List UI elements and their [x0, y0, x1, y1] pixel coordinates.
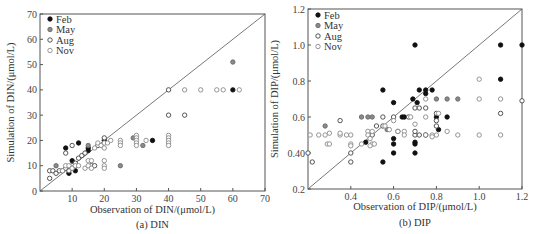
data-point — [413, 151, 417, 155]
data-point — [498, 133, 502, 137]
data-point — [199, 88, 203, 92]
data-point — [498, 111, 502, 115]
data-point — [391, 151, 395, 155]
data-point — [83, 151, 87, 155]
data-point — [391, 118, 395, 122]
series-may — [54, 60, 235, 168]
x-tick-label: 1.2 — [516, 191, 529, 202]
data-point — [308, 133, 312, 137]
data-point — [92, 146, 96, 150]
data-point — [317, 133, 321, 137]
data-point — [434, 133, 438, 137]
data-point — [417, 88, 421, 92]
y-tick-label: 1.2 — [293, 4, 306, 15]
y-tick-label: 60 — [27, 34, 37, 45]
data-point — [70, 143, 74, 147]
chart-caption: (b) DIP — [399, 217, 431, 229]
legend-label: Aug — [324, 31, 343, 42]
data-point — [102, 136, 106, 140]
data-point — [498, 97, 502, 101]
data-point — [445, 129, 449, 133]
series-feb — [364, 43, 525, 164]
data-point — [424, 115, 428, 119]
data-point — [434, 118, 438, 122]
legend-marker-icon — [48, 17, 52, 21]
y-tick-label: 0.8 — [293, 76, 306, 87]
series-nov — [308, 77, 503, 148]
y-tick-label: 40 — [27, 84, 37, 95]
data-point — [374, 124, 378, 128]
data-point — [359, 115, 363, 119]
data-point — [150, 138, 154, 142]
data-point — [417, 133, 421, 137]
data-point — [166, 88, 170, 92]
data-point — [381, 88, 385, 92]
data-point — [364, 140, 368, 144]
data-point — [411, 97, 415, 101]
data-point — [402, 133, 406, 137]
data-point — [417, 106, 421, 110]
x-tick-label: 30 — [131, 193, 141, 204]
legend-marker-icon — [316, 34, 320, 38]
data-point — [310, 160, 314, 164]
x-tick-label: 10 — [67, 193, 77, 204]
data-point — [118, 143, 122, 147]
x-tick-label: 70 — [260, 193, 270, 204]
y-axis-label: Simulation of DIP/(μmol/L) — [269, 39, 281, 158]
data-point — [430, 135, 434, 139]
data-point — [327, 142, 331, 146]
data-point — [477, 97, 481, 101]
data-point — [413, 106, 417, 110]
data-point — [368, 136, 372, 140]
data-point — [381, 160, 385, 164]
x-axis-label: Observation of DIN/(μmol/L) — [90, 204, 216, 216]
legend-marker-icon — [48, 48, 52, 52]
y-tick-label: 70 — [27, 9, 37, 20]
data-point — [323, 124, 327, 128]
data-point — [221, 88, 225, 92]
data-point — [338, 118, 342, 122]
data-point — [366, 115, 370, 119]
data-point — [102, 166, 106, 170]
legend-label: May — [324, 20, 344, 31]
data-point — [349, 160, 353, 164]
data-point — [182, 88, 186, 92]
x-tick-label: 20 — [99, 193, 109, 204]
data-point — [424, 97, 428, 101]
data-point — [445, 115, 449, 119]
data-point — [456, 97, 460, 101]
data-point — [477, 77, 481, 81]
data-point — [434, 124, 438, 128]
data-point — [434, 97, 438, 101]
data-point — [89, 158, 93, 162]
data-point — [413, 43, 417, 47]
figure-canvas: 10203040506070010203040506070Observation… — [0, 0, 535, 234]
data-point — [520, 43, 524, 47]
data-point — [415, 100, 419, 104]
data-point — [215, 88, 219, 92]
chart-din: 10203040506070010203040506070Observation… — [5, 9, 270, 232]
data-point — [402, 115, 406, 119]
data-point — [109, 138, 113, 142]
data-point — [445, 97, 449, 101]
data-point — [456, 133, 460, 137]
legend-marker-icon — [48, 27, 52, 31]
legend-marker-icon — [48, 38, 52, 42]
legend: FebMayAugNov — [48, 14, 76, 57]
y-axis-label: Simulation of DIN/(μmol/L) — [5, 42, 17, 162]
data-point — [182, 113, 186, 117]
y-tick-label: 50 — [27, 59, 37, 70]
data-point — [391, 136, 395, 140]
data-point — [349, 133, 353, 137]
data-point — [89, 166, 93, 170]
data-point — [383, 124, 387, 128]
data-point — [144, 138, 148, 142]
data-point — [381, 115, 385, 119]
data-point — [498, 77, 502, 81]
data-point — [102, 146, 106, 150]
data-point — [436, 111, 440, 115]
legend-label: Aug — [56, 35, 75, 46]
data-point — [76, 141, 80, 145]
legend-label: Feb — [56, 14, 72, 25]
data-point — [64, 151, 68, 155]
